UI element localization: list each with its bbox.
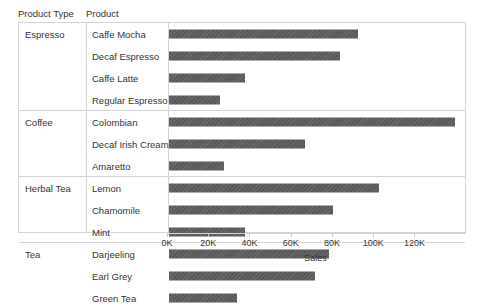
- sales-bar[interactable]: [169, 272, 315, 281]
- table-row[interactable]: Decaf Irish Cream: [19, 133, 465, 155]
- bar-track: [168, 111, 465, 133]
- bar-track: [168, 287, 465, 307]
- x-axis-tick-label: 100K: [363, 238, 384, 248]
- product-label: Caffe Latte: [92, 73, 138, 84]
- x-axis-title: Sales: [0, 253, 491, 263]
- x-axis-tick: [167, 233, 168, 237]
- product-label: Regular Espresso: [92, 95, 168, 106]
- table-row[interactable]: Caffe Latte: [19, 67, 465, 89]
- table-row[interactable]: Chamomile: [19, 199, 465, 221]
- product-type-group: EspressoCaffe MochaDecaf EspressoCaffe L…: [19, 23, 465, 111]
- table-row[interactable]: Earl Grey: [19, 265, 465, 287]
- table-row[interactable]: Amaretto: [19, 155, 465, 177]
- group-list: EspressoCaffe MochaDecaf EspressoCaffe L…: [19, 23, 465, 307]
- chart-frame: EspressoCaffe MochaDecaf EspressoCaffe L…: [18, 22, 466, 233]
- x-axis-tick: [332, 233, 333, 237]
- table-row[interactable]: Regular Espresso: [19, 89, 465, 111]
- sales-bar[interactable]: [169, 206, 333, 215]
- column-header-product-type: Product Type: [18, 8, 74, 19]
- product-label: Earl Grey: [92, 271, 132, 282]
- bar-track: [168, 89, 465, 111]
- product-label: Mint: [92, 227, 110, 238]
- sales-bar[interactable]: [169, 228, 245, 237]
- x-axis-title-text: Sales: [304, 253, 327, 263]
- sales-bar[interactable]: [169, 118, 455, 127]
- bar-track: [168, 45, 465, 67]
- table-row[interactable]: Colombian: [19, 111, 465, 133]
- product-label: Decaf Irish Cream: [92, 139, 169, 150]
- x-axis-tick: [373, 233, 374, 237]
- x-axis-tick: [414, 233, 415, 237]
- bar-track: [168, 199, 465, 221]
- sales-bar[interactable]: [169, 96, 220, 105]
- product-label: Chamomile: [92, 205, 140, 216]
- table-row[interactable]: Decaf Espresso: [19, 45, 465, 67]
- sales-bar[interactable]: [169, 162, 224, 171]
- sales-bar[interactable]: [169, 30, 358, 39]
- bar-track: [168, 177, 465, 199]
- bar-track: [168, 67, 465, 89]
- x-axis-tick: [291, 233, 292, 237]
- product-label: Green Tea: [92, 293, 136, 304]
- x-axis-line: [167, 233, 466, 234]
- table-row[interactable]: Lemon: [19, 177, 465, 199]
- bar-track: [168, 23, 465, 45]
- sales-bar[interactable]: [169, 294, 237, 303]
- column-header-product: Product: [86, 8, 119, 19]
- product-label: Lemon: [92, 183, 121, 194]
- table-row[interactable]: Green Tea: [19, 287, 465, 307]
- product-label: Colombian: [92, 117, 137, 128]
- sales-bar[interactable]: [169, 74, 245, 83]
- bar-track: [168, 265, 465, 287]
- x-axis-tick-label: 0K: [161, 238, 172, 248]
- product-label: Amaretto: [92, 161, 131, 172]
- product-type-group: CoffeeColombianDecaf Irish CreamAmaretto: [19, 111, 465, 177]
- x-axis-tick-label: 40K: [241, 238, 257, 248]
- x-axis-tick-label: 120K: [404, 238, 425, 248]
- sales-bar[interactable]: [169, 52, 340, 61]
- sales-bar[interactable]: [169, 184, 379, 193]
- bar-track: [168, 155, 465, 177]
- x-axis-tick-label: 60K: [283, 238, 299, 248]
- bar-track: [168, 133, 465, 155]
- product-label: Decaf Espresso: [92, 51, 159, 62]
- x-axis-tick-label: 20K: [200, 238, 216, 248]
- table-row[interactable]: Caffe Mocha: [19, 23, 465, 45]
- sales-bar[interactable]: [169, 140, 305, 149]
- x-axis-tick-label: 80K: [324, 238, 340, 248]
- product-label: Caffe Mocha: [92, 29, 146, 40]
- x-axis-tick: [208, 233, 209, 237]
- x-axis-tick: [249, 233, 250, 237]
